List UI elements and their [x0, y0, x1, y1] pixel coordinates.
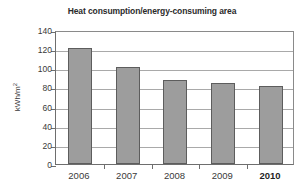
x-axis-tick [247, 164, 248, 169]
y-axis-tick-label: 80 [12, 83, 52, 93]
bar[interactable] [259, 86, 283, 164]
x-axis-tick [104, 164, 105, 169]
chart-title: Heat consumption/energy-consuming area [0, 6, 304, 16]
y-axis-title: kWh/m2 [12, 67, 23, 127]
y-axis-tick-label: 40 [12, 122, 52, 132]
plot-area [55, 31, 294, 165]
bar-slot [247, 32, 295, 164]
bar[interactable] [163, 80, 187, 164]
x-axis-tick [199, 164, 200, 169]
y-axis-tick-label: 0 [12, 160, 52, 170]
y-axis-tick-label: 60 [12, 103, 52, 113]
bar-slot [56, 32, 104, 164]
bar-chart: Heat consumption/energy-consuming area k… [0, 0, 304, 194]
bar-slot [104, 32, 152, 164]
bar-slot [152, 32, 200, 164]
x-axis-tick [152, 164, 153, 169]
y-axis-tick-label: 120 [12, 45, 52, 55]
bar-slot [199, 32, 247, 164]
x-axis-tick-label: 2010 [240, 170, 300, 181]
bar[interactable] [116, 67, 140, 164]
bar[interactable] [211, 83, 235, 164]
y-axis-tick-label: 140 [12, 26, 52, 36]
y-axis-tick-label: 20 [12, 141, 52, 151]
y-axis-tick-label: 100 [12, 64, 52, 74]
bar[interactable] [68, 48, 92, 164]
